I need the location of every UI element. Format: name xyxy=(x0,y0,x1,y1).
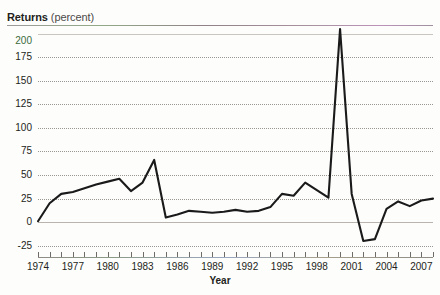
x-tick-label-2001: 2001 xyxy=(341,261,363,272)
x-tick-2005 xyxy=(398,252,399,257)
x-tick-label-1992: 1992 xyxy=(236,261,258,272)
x-tick-1979 xyxy=(96,252,97,257)
x-tick-1999 xyxy=(328,252,329,257)
x-tick-1985 xyxy=(166,252,167,257)
title-divider xyxy=(7,25,433,26)
x-tick-1974 xyxy=(38,252,39,257)
x-axis-title: Year xyxy=(0,275,440,286)
x-tick-1978 xyxy=(84,252,85,257)
y-tick-label-25: 25 xyxy=(0,194,32,204)
x-tick-label-1974: 1974 xyxy=(27,261,49,272)
x-tick-2003 xyxy=(375,252,376,257)
x-tick-2000 xyxy=(340,252,341,257)
x-tick-1987 xyxy=(189,252,190,257)
y-tick-label-150: 150 xyxy=(0,76,32,86)
y-tick-label-0: 0 xyxy=(0,217,32,227)
x-tick-1993 xyxy=(259,252,260,257)
y-tick-label-100: 100 xyxy=(0,123,32,133)
chart-title-units: (percent) xyxy=(51,11,94,23)
y-tick-label-50: 50 xyxy=(0,170,32,180)
x-tick-1977 xyxy=(73,252,74,257)
x-tick-2008 xyxy=(433,252,434,257)
x-tick-1992 xyxy=(247,252,248,257)
y-tick-label-125: 125 xyxy=(0,99,32,109)
x-tick-label-1977: 1977 xyxy=(62,261,84,272)
x-tick-label-1986: 1986 xyxy=(166,261,188,272)
x-tick-2001 xyxy=(352,252,353,257)
x-tick-1989 xyxy=(212,252,213,257)
x-tick-2004 xyxy=(387,252,388,257)
x-tick-label-1989: 1989 xyxy=(201,261,223,272)
x-tick-2002 xyxy=(363,252,364,257)
x-tick-1982 xyxy=(131,252,132,257)
x-tick-1991 xyxy=(236,252,237,257)
x-axis-line xyxy=(38,257,433,258)
x-tick-1984 xyxy=(154,252,155,257)
data-series-line xyxy=(38,29,433,257)
x-tick-1995 xyxy=(282,252,283,257)
y-tick-label-200: 200 xyxy=(0,36,32,46)
x-tick-label-1995: 1995 xyxy=(271,261,293,272)
y-tick-label--25: -25 xyxy=(0,241,32,251)
x-tick-1975 xyxy=(50,252,51,257)
y-tick-label-75: 75 xyxy=(0,146,32,156)
x-tick-1986 xyxy=(177,252,178,257)
x-tick-label-1980: 1980 xyxy=(97,261,119,272)
x-tick-label-1998: 1998 xyxy=(306,261,328,272)
y-axis-labels: 2001751501251007550250-25 xyxy=(0,0,36,295)
x-tick-1980 xyxy=(108,252,109,257)
x-tick-label-2004: 2004 xyxy=(375,261,397,272)
x-tick-1996 xyxy=(294,252,295,257)
x-tick-label-2007: 2007 xyxy=(410,261,432,272)
x-tick-1998 xyxy=(317,252,318,257)
x-tick-1994 xyxy=(270,252,271,257)
x-tick-1981 xyxy=(119,252,120,257)
x-tick-1988 xyxy=(201,252,202,257)
x-tick-label-1983: 1983 xyxy=(131,261,153,272)
x-tick-2007 xyxy=(421,252,422,257)
y-tick-label-175: 175 xyxy=(0,52,32,62)
x-tick-1976 xyxy=(61,252,62,257)
x-tick-1983 xyxy=(143,252,144,257)
x-tick-1990 xyxy=(224,252,225,257)
returns-line-chart: Returns (percent) 2001751501251007550250… xyxy=(0,0,440,295)
x-tick-2006 xyxy=(410,252,411,257)
x-tick-1997 xyxy=(305,252,306,257)
